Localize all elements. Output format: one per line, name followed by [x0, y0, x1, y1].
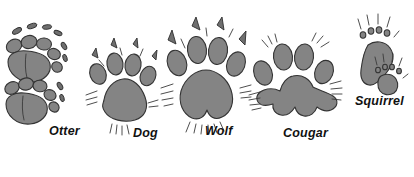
track-cougar	[249, 33, 342, 116]
track-label-dog: Dog	[133, 126, 158, 140]
tracks-illustration	[0, 0, 414, 177]
track-squirrel	[358, 14, 408, 95]
track-label-cougar: Cougar	[283, 126, 328, 140]
animal-tracks-figure: Otter Dog Wolf Cougar Squirrel	[0, 0, 414, 177]
track-label-wolf: Wolf	[205, 124, 233, 138]
track-otter	[3, 22, 69, 124]
track-wolf	[161, 17, 251, 134]
track-label-squirrel: Squirrel	[355, 94, 404, 108]
track-label-otter: Otter	[49, 124, 80, 138]
track-dog	[86, 38, 159, 135]
